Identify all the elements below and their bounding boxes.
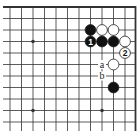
white-stone: [108, 25, 119, 36]
star-point-icon: [31, 40, 35, 44]
white-stone: [120, 36, 131, 47]
star-point-icon: [100, 109, 104, 113]
stone-icon: [120, 36, 131, 47]
stones: 12: [85, 25, 130, 93]
stone-icon: [108, 82, 119, 93]
white-stone: [108, 59, 119, 70]
white-stone-2: 2: [120, 48, 131, 59]
move-number: 2: [123, 48, 128, 58]
black-stone: [108, 36, 119, 47]
point-label-b: b: [100, 70, 105, 81]
stone-icon: [85, 25, 96, 36]
black-stone: [97, 36, 108, 47]
black-stone: [85, 25, 96, 36]
stone-icon: [97, 25, 108, 36]
stone-icon: [97, 36, 108, 47]
point-labels: ab: [98, 59, 106, 82]
white-stone: [97, 25, 108, 36]
stone-icon: [108, 36, 119, 47]
move-number: 1: [88, 37, 93, 47]
stone-icon: [108, 25, 119, 36]
star-point-icon: [31, 109, 35, 113]
black-stone: [108, 82, 119, 93]
black-stone-1: 1: [85, 36, 96, 47]
go-board-diagram: ab 12: [0, 0, 137, 138]
point-label-a: a: [100, 59, 105, 70]
stone-icon: [108, 59, 119, 70]
